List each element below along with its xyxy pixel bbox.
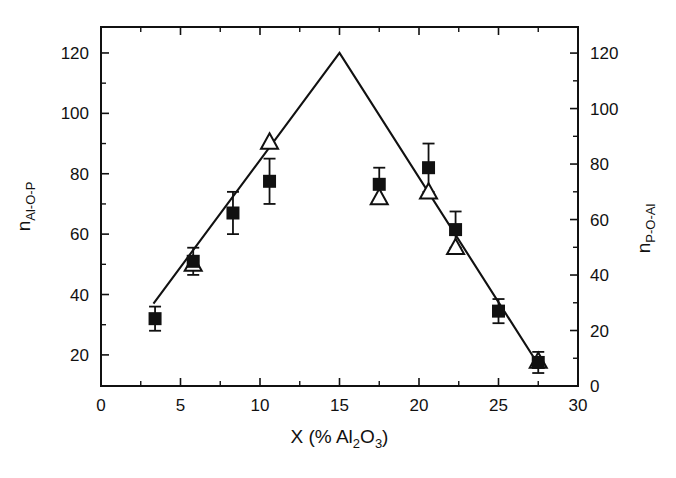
y-right-tick-label: 120 [590,44,618,63]
x-tick-label: 20 [410,396,429,415]
y-axis-right-ticks [570,53,578,386]
data-point-square [263,175,276,188]
data-point-square [422,161,435,174]
y-left-tick-label: 60 [70,225,89,244]
y-right-tick-label: 80 [590,155,609,174]
open-triangle-markers [185,133,547,367]
x-tick-label: 25 [489,396,508,415]
data-point-square [149,312,162,325]
error-bars [149,144,544,373]
x-axis-tick-labels: 051015202530 [96,396,587,415]
svg-text:nP-O-Al: nP-O-Al [633,204,658,254]
y-left-tick-label: 120 [61,44,89,63]
axes-box [101,27,578,386]
data-point-square [449,223,462,236]
data-point-triangle [420,183,437,198]
data-point-square [492,305,505,318]
data-point-triangle [447,239,464,254]
x-tick-label: 10 [251,396,270,415]
x-tick-label: 0 [96,396,105,415]
model-trend-polyline [153,53,539,367]
x-axis-title: X (% Al2O3) [291,426,389,451]
data-point-square [226,206,239,219]
svg-text:X (% Al2O3): X (% Al2O3) [291,426,389,451]
data-point-triangle [371,189,388,204]
y-right-tick-label: 40 [590,266,609,285]
scatter-plot: 051015202530 20406080100120 020406080100… [0,0,676,478]
y-right-tick-label: 100 [590,100,618,119]
y-axis-right-title: nP-O-Al [633,204,658,254]
x-axis-ticks [101,27,578,386]
y-left-tick-label: 100 [61,104,89,123]
y-left-tick-label: 20 [70,346,89,365]
y-axis-left-title: nAl-O-P [13,182,38,232]
y-right-tick-label: 0 [590,377,599,396]
trend-line [153,53,539,367]
figure-canvas: 051015202530 20406080100120 020406080100… [0,0,676,478]
svg-text:nAl-O-P: nAl-O-P [13,182,38,232]
data-point-square [187,255,200,268]
x-tick-label: 15 [330,396,349,415]
y-right-tick-label: 20 [590,322,609,341]
data-point-square [373,178,386,191]
y-right-tick-label: 60 [590,211,609,230]
data-point-triangle [261,133,278,148]
data-point-square [532,356,545,369]
filled-square-markers [149,161,545,369]
y-axis-right-tick-labels: 020406080100120 [590,44,618,396]
y-left-tick-label: 80 [70,165,89,184]
y-left-tick-label: 40 [70,286,89,305]
x-tick-label: 5 [176,396,185,415]
plot-frame [101,27,578,386]
y-axis-left-tick-labels: 20406080100120 [61,44,89,365]
y-axis-left-ticks [101,53,109,355]
x-tick-label: 30 [569,396,588,415]
